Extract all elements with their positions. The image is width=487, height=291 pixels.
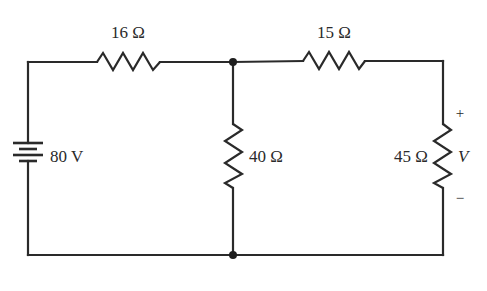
resistor-40-ohm-label: 40 Ω [249, 147, 283, 166]
resistor-15-ohm-label: 15 Ω [317, 23, 351, 42]
resistor-15-ohm: 15 Ω [303, 23, 365, 69]
output-voltage: + V − [456, 105, 471, 206]
battery-80v: 80 V [13, 143, 84, 166]
junction-node-top [229, 58, 237, 66]
circuit-diagram: 80 V 16 Ω 15 Ω 40 Ω 45 Ω + V − [0, 0, 487, 291]
junction-node-bottom [229, 251, 237, 259]
resistor-45-ohm: 45 Ω [394, 124, 451, 188]
resistor-16-ohm-label: 16 Ω [111, 23, 145, 42]
resistor-40-ohm: 40 Ω [225, 124, 283, 188]
voltage-label: V [458, 147, 471, 166]
resistor-45-ohm-label: 45 Ω [394, 147, 428, 166]
minus-sign: − [456, 190, 464, 206]
wires [28, 61, 443, 255]
plus-sign: + [456, 105, 464, 121]
resistor-16-ohm: 16 Ω [97, 23, 160, 70]
battery-label: 80 V [50, 147, 84, 166]
